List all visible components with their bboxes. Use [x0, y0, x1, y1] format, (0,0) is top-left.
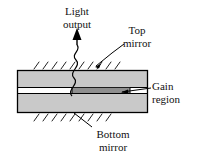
label-light-output-line2: output [46, 18, 108, 31]
label-top-mirror-line1: Top [112, 24, 162, 37]
label-gain-region-line1: Gain [152, 80, 204, 93]
gain-region-block [72, 88, 130, 93]
bottom-surface-hatching [34, 114, 111, 121]
slab-top-mirror-body [18, 71, 148, 88]
label-bottom-mirror-line2: mirror [82, 141, 144, 154]
label-light-output-line1: Light [46, 5, 108, 18]
slab-bottom-mirror-body [18, 94, 148, 113]
label-top-mirror-line2: mirror [112, 37, 162, 50]
label-top-mirror: Top mirror [112, 24, 162, 49]
figure-canvas: Light output Top mirror Gain region Bott… [0, 0, 205, 162]
label-light-output: Light output [46, 5, 108, 30]
label-bottom-mirror: Bottom mirror [82, 128, 144, 153]
label-bottom-mirror-line1: Bottom [82, 128, 144, 141]
label-gain-region-line2: region [152, 93, 204, 106]
label-gain-region: Gain region [152, 80, 204, 105]
